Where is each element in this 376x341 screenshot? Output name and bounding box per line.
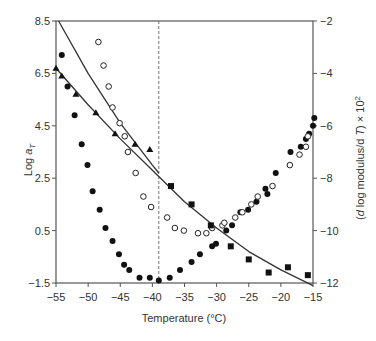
fit-curve: [59, 21, 159, 173]
filled-circle-point: [110, 238, 116, 244]
filled-circle-point: [229, 222, 235, 228]
open-circle-point: [141, 194, 147, 200]
y-left-tick-label: 8.5: [35, 15, 50, 27]
filled-circle-point: [177, 267, 183, 273]
filled-circle-point: [72, 112, 78, 118]
triangle-point: [146, 146, 153, 152]
data-points: [53, 39, 318, 283]
filled-circle-point: [126, 267, 132, 273]
x-tick-label: −35: [175, 291, 194, 303]
open-circle-point: [204, 230, 210, 236]
filled-circle-point: [79, 141, 85, 147]
square-point: [228, 243, 234, 249]
fit-curves: [56, 21, 313, 286]
y-left-tick-label: 6.5: [35, 67, 50, 79]
x-axis-ticks: −55−50−45−40−35−30−25−20−15: [47, 283, 323, 303]
square-point: [266, 270, 272, 276]
plot-frame: [56, 21, 313, 283]
y-axis-left-label: Log aT: [22, 143, 37, 177]
wlf-shift-factor-chart: −55−50−45−40−35−30−25−20−15 8.56.54.52.5…: [0, 0, 376, 341]
y-right-tick-label: −4: [320, 67, 333, 79]
triangle-point: [53, 65, 60, 71]
y-left-tick-label: 0.5: [35, 225, 50, 237]
open-circle-point: [249, 202, 255, 208]
y-left-tick-label: 2.5: [35, 172, 50, 184]
open-circle-point: [172, 225, 178, 231]
open-circle-point: [96, 39, 102, 45]
square-point: [246, 256, 252, 262]
open-circle-point: [222, 220, 228, 226]
filled-circle-point: [97, 207, 103, 213]
filled-circle-point: [167, 275, 173, 281]
filled-circle-point: [262, 186, 268, 192]
open-circle-point: [232, 215, 238, 221]
open-circle-point: [101, 63, 107, 69]
y-right-tick-label: −2: [320, 15, 333, 27]
y-right-tick-label: −12: [320, 277, 339, 289]
y-left-tick-label: 4.5: [35, 120, 50, 132]
y-left-tick-label: −1.5: [28, 277, 50, 289]
filled-circle-point: [197, 251, 203, 257]
open-circle-point: [164, 215, 170, 221]
x-tick-label: −40: [143, 291, 162, 303]
open-circle-point: [303, 144, 309, 150]
open-circle-point: [125, 149, 131, 155]
y-right-tick-label: −6: [320, 120, 333, 132]
filled-circle-point: [90, 188, 96, 194]
fit-curve: [56, 68, 313, 285]
filled-circle-point: [273, 170, 279, 176]
open-circle-point: [122, 133, 128, 139]
filled-circle-point: [121, 262, 127, 268]
filled-circle-point: [310, 123, 316, 129]
filled-circle-point: [59, 52, 65, 58]
open-circle-point: [117, 120, 123, 126]
square-point: [305, 272, 311, 278]
filled-circle-point: [311, 115, 317, 121]
x-tick-label: −20: [272, 291, 291, 303]
square-point: [168, 183, 174, 189]
open-circle-point: [287, 162, 293, 168]
x-axis-label: Temperature (°C): [142, 312, 226, 324]
x-tick-label: −15: [304, 291, 323, 303]
filled-circle-point: [245, 207, 251, 213]
filled-circle-point: [102, 225, 108, 231]
open-circle-point: [195, 230, 201, 236]
filled-circle-point: [213, 241, 219, 247]
filled-circle-point: [84, 162, 90, 168]
triangle-point: [58, 73, 65, 79]
chart-container: −55−50−45−40−35−30−25−20−15 8.56.54.52.5…: [0, 0, 376, 341]
square-point: [208, 222, 214, 228]
filled-circle-point: [156, 277, 162, 283]
x-tick-label: −45: [111, 291, 130, 303]
y-axis-right-ticks: −2−4−6−8−10−12: [313, 15, 339, 289]
y-right-tick-label: −8: [320, 172, 333, 184]
open-circle-point: [270, 183, 276, 189]
filled-circle-point: [137, 275, 143, 281]
square-point: [285, 264, 291, 270]
open-circle-point: [255, 194, 261, 200]
open-circle-point: [110, 105, 116, 111]
filled-circle-point: [288, 149, 294, 155]
triangle-point: [132, 141, 139, 147]
x-tick-label: −25: [239, 291, 258, 303]
open-circle-point: [148, 204, 154, 210]
y-axis-right-label: (d log modulus/d T) × 102: [353, 95, 366, 220]
filled-circle-point: [264, 191, 270, 197]
x-tick-label: −30: [207, 291, 226, 303]
open-circle-point: [305, 133, 311, 139]
filled-circle-point: [116, 251, 122, 257]
filled-circle-point: [223, 228, 229, 234]
filled-circle-point: [65, 84, 71, 90]
square-point: [189, 201, 195, 207]
open-circle-point: [297, 152, 303, 158]
y-right-tick-label: −10: [320, 225, 339, 237]
filled-circle-point: [189, 259, 195, 265]
x-tick-label: −50: [79, 291, 98, 303]
open-circle-point: [240, 209, 246, 215]
open-circle-point: [106, 84, 112, 90]
open-circle-point: [133, 170, 139, 176]
x-tick-label: −55: [47, 291, 66, 303]
filled-circle-point: [147, 275, 153, 281]
open-circle-point: [181, 228, 187, 234]
